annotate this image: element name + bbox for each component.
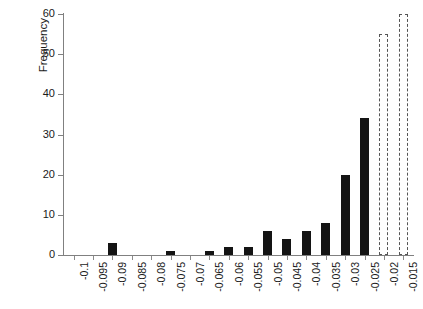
y-tick-label: 10	[15, 209, 55, 220]
x-tick-mark	[229, 256, 230, 260]
x-tick-mark	[268, 256, 269, 260]
x-tick-label: -0.06	[234, 262, 245, 286]
plot-area	[64, 14, 413, 255]
x-tick-label: -0.035	[331, 262, 342, 292]
x-tick-label: -0.08	[156, 262, 167, 286]
bar	[108, 243, 117, 255]
x-tick-mark	[93, 256, 94, 260]
x-tick-label: -0.07	[195, 262, 206, 286]
x-tick-label: -0.045	[292, 262, 303, 292]
bar	[205, 251, 214, 255]
bar	[166, 251, 175, 255]
x-tick-mark	[209, 256, 210, 260]
bar	[244, 247, 253, 255]
bar	[379, 34, 388, 255]
x-tick-label: -0.03	[350, 262, 361, 286]
x-tick-label: -0.1	[79, 262, 90, 280]
y-tick-label: 40	[15, 88, 55, 99]
x-tick-label: -0.075	[176, 262, 187, 292]
y-tick-label: 20	[15, 169, 55, 180]
x-tick-mark	[306, 256, 307, 260]
x-tick-mark	[248, 256, 249, 260]
bar	[302, 231, 311, 255]
x-tick-mark	[345, 256, 346, 260]
y-tick-mark	[58, 255, 64, 256]
x-tick-mark	[112, 256, 113, 260]
y-tick-label: 0	[15, 249, 55, 260]
x-tick-label: -0.05	[273, 262, 284, 286]
bar	[341, 175, 350, 255]
x-tick-label: -0.025	[370, 262, 381, 292]
x-tick-label: -0.085	[137, 262, 148, 292]
y-axis-title: Frequency	[38, 18, 50, 72]
x-tick-label: -0.065	[214, 262, 225, 292]
x-axis-line	[63, 255, 414, 256]
x-tick-mark	[365, 256, 366, 260]
y-tick-label: 30	[15, 129, 55, 140]
x-tick-mark	[74, 256, 75, 260]
x-tick-label: -0.095	[98, 262, 109, 292]
bar	[224, 247, 233, 255]
x-tick-mark	[132, 256, 133, 260]
x-tick-label: -0.02	[389, 262, 400, 286]
x-tick-mark	[403, 256, 404, 260]
x-tick-label: -0.015	[408, 262, 419, 292]
x-tick-mark	[326, 256, 327, 260]
y-tick-label: 50	[15, 48, 55, 59]
bar	[360, 118, 369, 255]
bar	[399, 14, 408, 255]
x-tick-mark	[384, 256, 385, 260]
bar	[263, 231, 272, 255]
x-tick-mark	[287, 256, 288, 260]
bar	[282, 239, 291, 255]
x-tick-mark	[151, 256, 152, 260]
x-tick-label: -0.09	[117, 262, 128, 286]
y-tick-label: 60	[15, 8, 55, 19]
chart-screenshot: Frequency 0102030405060 -0.1-0.095-0.09-…	[0, 0, 423, 309]
x-tick-mark	[171, 256, 172, 260]
bar	[321, 223, 330, 255]
x-tick-label: -0.055	[253, 262, 264, 292]
x-tick-mark	[190, 256, 191, 260]
x-tick-label: -0.04	[311, 262, 322, 286]
